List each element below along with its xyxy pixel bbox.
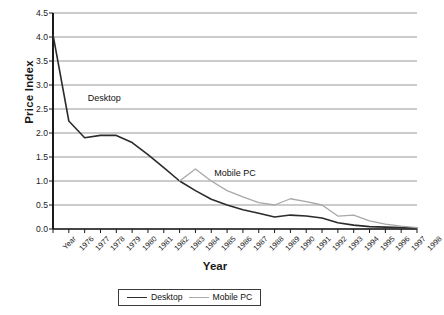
x-tick-label: 1980 xyxy=(141,235,158,252)
legend-swatch-desktop xyxy=(127,297,147,298)
x-tick-label: 1997 xyxy=(410,235,427,252)
x-tick-label: 1984 xyxy=(204,235,221,252)
x-tick-label: 1986 xyxy=(236,235,253,252)
chart-legend: Desktop Mobile PC xyxy=(118,289,261,306)
x-tick-label: 1990 xyxy=(299,235,316,252)
x-tick-label: Year xyxy=(61,235,77,251)
legend-item-mobile-pc: Mobile PC xyxy=(189,292,253,302)
x-tick-label: 1983 xyxy=(189,235,206,252)
x-tick-label: 1976 xyxy=(78,235,95,252)
x-tick-label: 1992 xyxy=(331,235,348,252)
x-tick-label: 1989 xyxy=(284,235,301,252)
x-tick-label: 1979 xyxy=(125,235,142,252)
legend-label-desktop: Desktop xyxy=(151,292,183,302)
x-tick-label: 1982 xyxy=(173,235,190,252)
series-annotation-desktop: Desktop xyxy=(88,93,121,103)
x-axis-title: Year xyxy=(0,260,430,272)
legend-item-desktop: Desktop xyxy=(127,292,183,302)
x-tick-label: 1996 xyxy=(394,235,411,252)
x-tick-label: 1981 xyxy=(157,235,174,252)
x-tick-label: 1993 xyxy=(347,235,364,252)
x-tick-label: 1991 xyxy=(315,235,332,252)
x-tick-label: 1998 xyxy=(426,235,443,252)
x-tick-label: 1985 xyxy=(220,235,237,252)
x-tick-label: 1978 xyxy=(109,235,126,252)
x-tick-label: 1995 xyxy=(378,235,395,252)
x-tick-label: 1988 xyxy=(268,235,285,252)
x-tick-label: 1994 xyxy=(363,235,380,252)
legend-label-mobile-pc: Mobile PC xyxy=(213,292,253,302)
series-annotation-mobile-pc: Mobile PC xyxy=(214,168,256,178)
legend-swatch-mobile-pc xyxy=(189,297,209,298)
x-tick-label: 1987 xyxy=(252,235,269,252)
x-tick-label: 1977 xyxy=(94,235,111,252)
